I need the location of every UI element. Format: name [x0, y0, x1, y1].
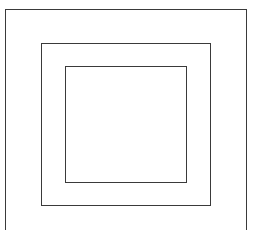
inner-square [65, 66, 187, 183]
